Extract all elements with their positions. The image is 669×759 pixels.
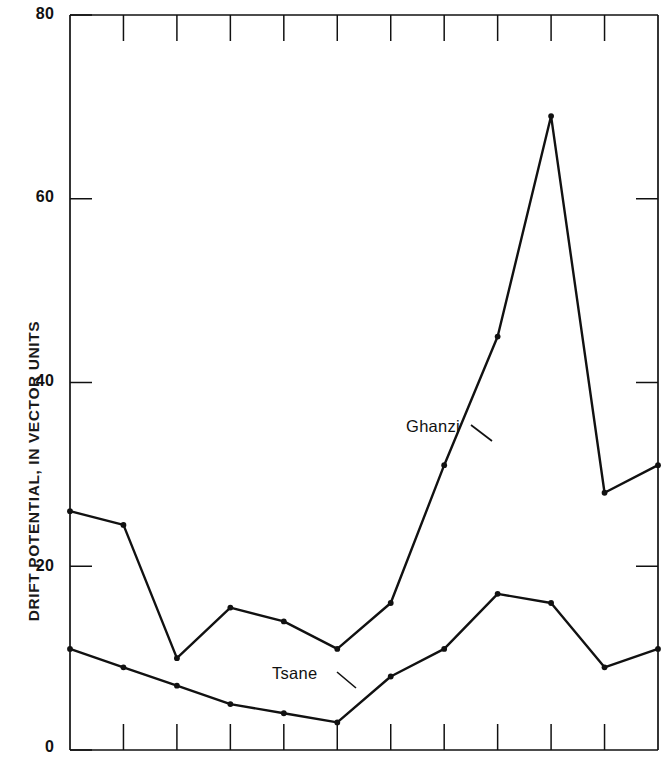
tick-marks (70, 15, 658, 750)
series-line-ghanzi (70, 116, 658, 658)
data-point-tsane-5 (334, 720, 340, 726)
leader-line-ghanzi (471, 425, 492, 441)
data-point-tsane-6 (388, 674, 394, 680)
data-point-tsane-10 (602, 664, 608, 670)
data-point-tsane-9 (548, 600, 554, 606)
data-series (67, 113, 661, 725)
plot-area (0, 0, 669, 759)
annotation-leaders (337, 425, 492, 688)
data-point-tsane-1 (121, 664, 127, 670)
data-point-ghanzi-1 (121, 522, 127, 528)
data-point-tsane-4 (281, 710, 287, 716)
data-point-tsane-11 (655, 646, 661, 652)
data-point-tsane-2 (174, 683, 180, 689)
data-point-ghanzi-11 (655, 462, 661, 468)
data-point-tsane-8 (495, 591, 501, 597)
axes (70, 15, 658, 750)
leader-line-tsane (337, 672, 356, 688)
data-point-ghanzi-9 (548, 113, 554, 119)
data-point-ghanzi-10 (602, 490, 608, 496)
drift-potential-chart: DRIFT POTENTIAL, IN VECTOR UNITS 80 60 4… (0, 0, 669, 759)
data-point-tsane-3 (227, 701, 233, 707)
data-point-ghanzi-3 (227, 605, 233, 611)
data-point-ghanzi-8 (495, 334, 501, 340)
data-point-ghanzi-5 (334, 646, 340, 652)
data-point-ghanzi-2 (174, 655, 180, 661)
data-point-ghanzi-0 (67, 508, 73, 514)
data-point-tsane-7 (441, 646, 447, 652)
data-point-tsane-0 (67, 646, 73, 652)
data-point-ghanzi-6 (388, 600, 394, 606)
data-point-ghanzi-4 (281, 618, 287, 624)
data-point-ghanzi-7 (441, 462, 447, 468)
